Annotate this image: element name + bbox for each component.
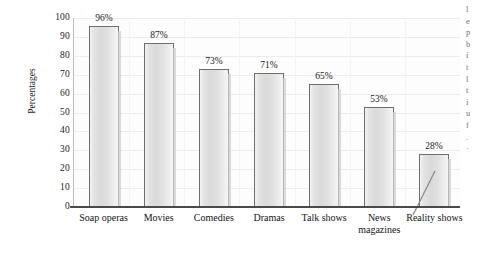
cropped-text-fragment: · [466,143,490,155]
bar-shadow [118,31,121,207]
y-axis-tick-label: 0 [40,202,70,211]
bar-value-label: 96% [74,13,134,23]
bar-value-label: 87% [129,30,189,40]
bar [419,154,449,207]
cropped-text-fragment: p [466,27,490,39]
grid-band [129,18,130,207]
y-axis-tick-labels: 1009080706050403020100 [36,18,70,207]
cropped-text-fragment: i [466,97,490,109]
gridline [74,56,460,57]
y-axis-tick-label: 40 [40,126,70,135]
cropped-text-fragment: u [466,108,490,120]
y-axis-tick-label: 80 [40,51,70,60]
bar [309,84,339,207]
bar-shadow [448,159,451,207]
y-axis-tick-label: 50 [40,108,70,117]
bar [89,26,119,207]
x-axis-tick-label: Reality shows [379,212,489,224]
bar-shadow [283,78,286,207]
bar [199,69,229,207]
bar-shadow [228,74,231,207]
cropped-text-fragment: t [466,85,490,97]
bar [364,107,394,207]
y-axis-tick-label: 70 [40,70,70,79]
cropped-text-fragment: l [466,74,490,86]
y-axis-tick-label: 100 [40,13,70,22]
cropped-text-fragment: . [466,132,490,144]
bar-shadow [173,48,176,207]
x-axis-tick-label-line1: Reality shows [406,212,462,223]
bar-value-label: 71% [239,60,299,70]
cropped-page-text: lepbitltiuf.· [466,4,490,164]
bar-value-label: 73% [184,56,244,66]
cropped-text-fragment: l [466,4,490,16]
bar-chart-figure: Percentages 1009080706050403020100 96%87… [0,0,465,253]
bar-value-label: 53% [349,94,409,104]
y-axis-line [73,18,74,207]
y-axis-tick-label: 30 [40,145,70,154]
bar-shadow [338,89,341,207]
y-axis-tick-label: 90 [40,32,70,41]
x-axis-line [70,206,460,208]
grid-band [239,18,240,207]
cropped-text-fragment: f [466,120,490,132]
grid-band [405,18,406,207]
cropped-text-fragment: b [466,39,490,51]
bar-shadow [393,112,396,207]
plot-area: 96%87%73%71%65%53%28% [74,18,460,207]
cropped-text-fragment: i [466,50,490,62]
grid-band [295,18,296,207]
bar [144,43,174,207]
grid-band [184,18,185,207]
bar-value-label: 65% [294,71,354,81]
y-axis-tick-label: 60 [40,89,70,98]
bar-value-label: 28% [404,141,464,151]
cropped-text-fragment: t [466,62,490,74]
bar [254,73,284,207]
cropped-text-fragment: e [466,16,490,28]
x-axis-tick-label-line2: magazines [324,224,434,236]
y-axis-tick-label: 20 [40,164,70,173]
grid-band [350,18,351,207]
y-axis-tick-label: 10 [40,183,70,192]
